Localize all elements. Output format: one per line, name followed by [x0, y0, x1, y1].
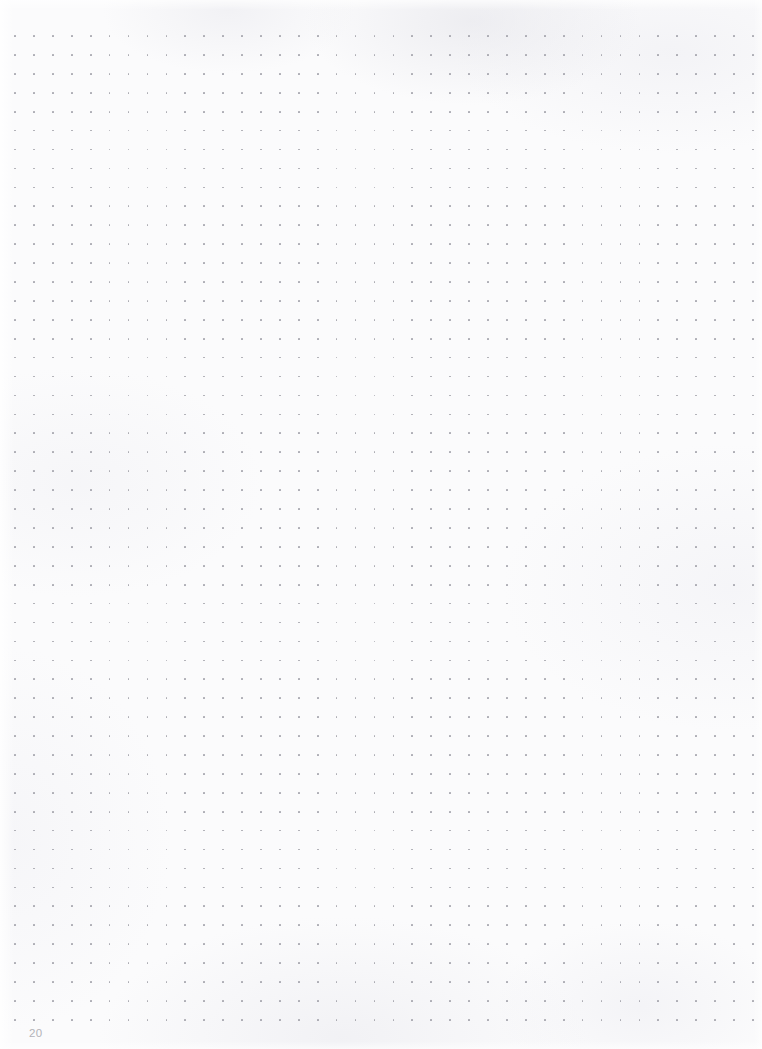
dot-grid — [0, 0, 762, 1049]
page-number: 20 — [29, 1027, 42, 1040]
notebook-page: 20 — [0, 0, 762, 1049]
